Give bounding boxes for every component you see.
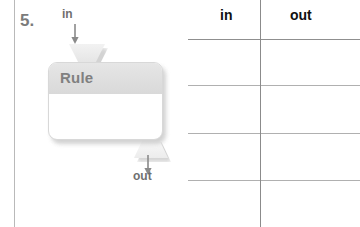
machine-title: Rule <box>60 69 93 87</box>
output-label: out <box>133 170 152 182</box>
table-row-line <box>188 85 360 86</box>
table-header-out: out <box>290 8 312 22</box>
input-label: in <box>62 8 73 20</box>
table-header-in: in <box>220 8 232 22</box>
table-row-line <box>188 39 360 40</box>
function-machine: Rule <box>48 62 163 140</box>
table-column-divider <box>260 0 261 227</box>
problem-number: 5. <box>20 12 34 29</box>
worksheet-page: 5. in Rule out in out <box>0 0 360 227</box>
table-row-line <box>188 133 360 134</box>
in-out-table: in out <box>188 0 360 227</box>
margin-rule-line <box>14 0 15 227</box>
arrow-down-icon <box>70 24 80 44</box>
table-row-line <box>188 180 360 181</box>
machine-body: Rule <box>48 62 163 140</box>
